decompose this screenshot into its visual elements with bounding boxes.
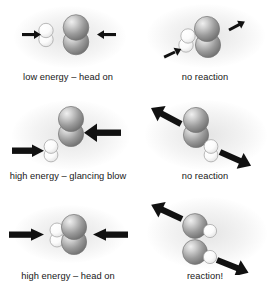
- molecule-scene-after: [137, 98, 273, 176]
- molecule-scene-before: [0, 98, 136, 176]
- molecule-scene-after: [137, 197, 273, 275]
- hydrogen-iodide-molecule-2: [183, 240, 217, 265]
- panel-before-glancing-blow: high energy – glancing blow: [0, 98, 136, 198]
- iodine-molecule-after: [183, 107, 208, 147]
- collision-diagram: low energy – head on: [0, 0, 273, 299]
- caption-after-glancing-blow: no reaction: [137, 171, 273, 181]
- arrow-left-thin: [97, 30, 116, 39]
- arrow-right-thick: [9, 228, 44, 240]
- iodine-molecule-before: [61, 214, 86, 254]
- panel-after-head-on: reaction!: [137, 197, 273, 297]
- arrow-up-right-thin: [227, 18, 247, 34]
- arrow-up-left-thick: [148, 197, 186, 227]
- molecule-scene-before: [0, 0, 136, 78]
- hydrogen-iodide-molecule-1: [183, 214, 217, 239]
- diagram-row-low-energy: low energy – head on: [0, 0, 273, 100]
- arrow-left-thick: [84, 124, 121, 142]
- molecule-scene-before: [0, 197, 136, 275]
- arrow-up-left-thick: [147, 100, 185, 131]
- arrow-left-thick: [93, 228, 128, 240]
- panel-before-low-energy: low energy – head on: [0, 0, 136, 100]
- diagram-row-glancing-blow: high energy – glancing blow: [0, 98, 273, 198]
- iodine-molecule-after: [194, 16, 220, 57]
- iodine-molecule-before: [63, 15, 89, 55]
- arrow-down-right-thick: [217, 144, 255, 174]
- caption-before-glancing-blow: high energy – glancing blow: [0, 171, 136, 181]
- caption-after-head-on: reaction!: [137, 271, 273, 281]
- panel-before-head-on: high energy – head on: [0, 197, 136, 297]
- panel-after-low-energy: no reaction: [137, 0, 273, 100]
- caption-before-head-on: high energy – head on: [0, 271, 136, 281]
- panel-after-glancing-blow: no reaction: [137, 98, 273, 198]
- diagram-row-head-on-reaction: high energy – head on: [0, 197, 273, 297]
- hydrogen-molecule-before: [44, 140, 58, 162]
- molecule-scene-after: [137, 0, 273, 78]
- caption-before-low-energy: low energy – head on: [0, 72, 136, 82]
- caption-after-low-energy: no reaction: [137, 72, 273, 82]
- hydrogen-molecule-after: [179, 29, 195, 52]
- arrow-right-thin: [22, 30, 41, 39]
- hydrogen-molecule-after: [204, 140, 218, 162]
- hydrogen-molecule-before: [39, 23, 53, 46]
- arrow-right-thick: [12, 145, 44, 157]
- iodine-molecule-before: [58, 106, 83, 146]
